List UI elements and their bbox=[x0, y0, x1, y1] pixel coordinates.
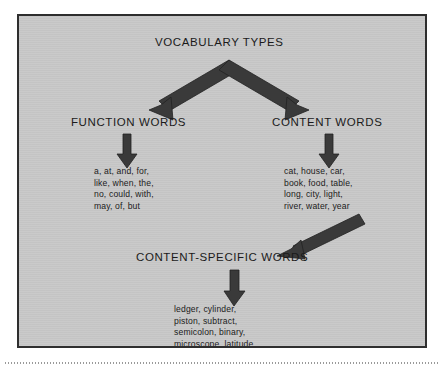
example-line: long, city, light, bbox=[284, 189, 353, 201]
example-line: no, could, with, bbox=[94, 189, 154, 201]
example-line: book, food, table, bbox=[284, 178, 353, 190]
example-line: semicolon, binary, bbox=[174, 327, 256, 339]
diagram-panel: VOCABULARY TYPES FUNCTION WORDS a, at, a… bbox=[17, 14, 427, 348]
example-line: a, at, and, for, bbox=[94, 166, 154, 178]
example-line: like, when, the, bbox=[94, 178, 154, 190]
example-line: piston, subtract, bbox=[174, 316, 256, 328]
footer-dotted-rule bbox=[4, 362, 440, 364]
diagram-title: VOCABULARY TYPES bbox=[155, 36, 284, 48]
arrow-content-specific-to-examples-icon bbox=[223, 270, 247, 308]
examples-content-specific-words: ledger, cylinder, piston, subtract, semi… bbox=[174, 304, 256, 348]
example-line: microscope, latitude, bbox=[174, 339, 256, 348]
examples-content-words: cat, house, car, book, food, table, long… bbox=[284, 166, 353, 212]
examples-function-words: a, at, and, for, like, when, the, no, co… bbox=[94, 166, 154, 212]
node-label-function-words: FUNCTION WORDS bbox=[71, 116, 186, 128]
split-arrow-to-function-and-content-icon bbox=[121, 58, 341, 124]
node-label-content-words: CONTENT WORDS bbox=[272, 116, 382, 128]
example-line: cat, house, car, bbox=[284, 166, 353, 178]
node-label-content-specific-words: CONTENT-SPECIFIC WORDS bbox=[136, 251, 308, 263]
arrow-function-words-to-examples-icon bbox=[116, 134, 138, 170]
arrow-content-words-to-examples-icon bbox=[318, 134, 340, 170]
example-line: river, water, year bbox=[284, 201, 353, 213]
example-line: may, of, but bbox=[94, 201, 154, 213]
example-line: ledger, cylinder, bbox=[174, 304, 256, 316]
